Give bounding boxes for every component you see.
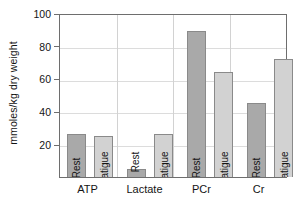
bar-series-label: Fatigue bbox=[160, 151, 170, 177]
bar-pcr-rest[interactable]: Rest bbox=[187, 31, 206, 177]
bar-group-lactate: RestFatigue bbox=[120, 15, 180, 177]
bar-groups: RestFatigueRestFatigueRestFatigueRestFat… bbox=[60, 15, 286, 177]
bar-pcr-fatigue[interactable]: Fatigue bbox=[214, 72, 233, 177]
y-axis-title-text: mmoles/kg dry weight bbox=[7, 41, 19, 145]
bar-group-atp: RestFatigue bbox=[60, 15, 120, 177]
bar-value-label: Fatigue bbox=[155, 134, 173, 173]
bar-value-label: Rest bbox=[127, 115, 146, 167]
x-axis-labels: ATPLactatePCrCr bbox=[59, 184, 287, 204]
bar-group-pcr: RestFatigue bbox=[180, 15, 240, 177]
bar-value-label: Fatigue bbox=[95, 136, 113, 173]
y-axis-ticks: 20406080100 bbox=[26, 0, 59, 186]
bar-series-label: Rest bbox=[73, 158, 83, 177]
y-axis-title: mmoles/kg dry weight bbox=[0, 0, 26, 186]
x-axis-label-atp: ATP bbox=[59, 184, 116, 204]
y-tick-label: 20 bbox=[39, 140, 54, 151]
bar-cr-rest[interactable]: Rest bbox=[247, 103, 266, 177]
x-axis-label-pcr: PCr bbox=[173, 184, 230, 204]
bar-series-label: Fatigue bbox=[220, 151, 230, 177]
bar-chart: mmoles/kg dry weight 20406080100 RestFat… bbox=[0, 0, 295, 212]
bar-holder: Rest bbox=[127, 169, 146, 177]
bar-series-label: Fatigue bbox=[280, 151, 290, 177]
bar-group-cr: RestFatigue bbox=[240, 15, 295, 177]
bar-value-label: Fatigue bbox=[275, 113, 293, 173]
bar-series-label: Fatigue bbox=[100, 151, 110, 177]
bar-lactate-fatigue[interactable]: Fatigue bbox=[154, 134, 173, 177]
plot-area: RestFatigueRestFatigueRestFatigueRestFat… bbox=[59, 14, 287, 178]
y-tick-label: 60 bbox=[39, 74, 54, 85]
bar-value-label: Rest bbox=[188, 113, 206, 173]
bar-atp-fatigue[interactable]: Fatigue bbox=[94, 136, 113, 177]
bar-atp-rest[interactable]: Rest bbox=[67, 134, 86, 177]
bar-lactate-rest[interactable] bbox=[127, 169, 146, 177]
bar-value-label: Fatigue bbox=[215, 113, 233, 173]
y-tick-label: 100 bbox=[33, 9, 54, 20]
y-tick-label: 40 bbox=[39, 107, 54, 118]
bar-value-label: Rest bbox=[248, 113, 266, 173]
bar-series-label: Rest bbox=[193, 158, 203, 177]
x-axis-label-lactate: Lactate bbox=[116, 184, 173, 204]
bar-value-label: Rest bbox=[68, 134, 86, 173]
bar-cr-fatigue[interactable]: Fatigue bbox=[274, 59, 293, 177]
x-axis-label-cr: Cr bbox=[230, 184, 287, 204]
y-tick-label: 80 bbox=[39, 42, 54, 53]
bar-series-label: Rest bbox=[253, 158, 263, 177]
